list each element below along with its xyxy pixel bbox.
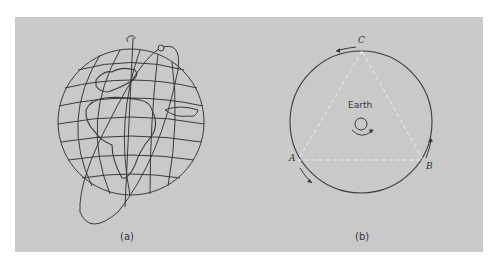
globe	[58, 36, 204, 224]
latitude-line	[58, 117, 204, 124]
orbit-diagram	[290, 47, 433, 193]
caption-b: (b)	[355, 231, 369, 242]
longitude-line	[150, 54, 158, 194]
rotation-axis	[125, 38, 133, 207]
figure-diagram	[0, 0, 495, 275]
latitude-line	[61, 136, 201, 142]
earth-rotation-arrow	[352, 130, 372, 135]
satellite-icon	[158, 45, 164, 51]
geostationary-orbit	[290, 51, 432, 193]
latitude-line	[82, 174, 180, 178]
caption-a: (a)	[120, 231, 134, 242]
satellite-label-c: C	[358, 35, 365, 45]
satellite-label-a: A	[289, 153, 296, 163]
asia-outline	[165, 107, 198, 116]
earth-label: Earth	[348, 100, 372, 110]
satellite-label-b: B	[426, 161, 433, 171]
earth-icon	[355, 118, 367, 130]
latitude-line	[68, 155, 194, 160]
arrowhead-icon	[307, 179, 312, 183]
longitude-line	[168, 62, 175, 186]
orbit-ellipse	[80, 46, 179, 224]
rotation-arrow-icon	[127, 36, 135, 42]
